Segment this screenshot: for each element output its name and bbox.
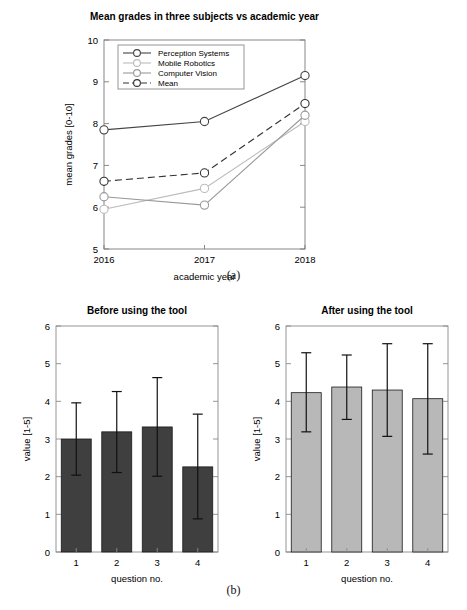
y-axis-label-1: value [1-5] [21,417,32,461]
x-tick-label: 2018 [294,254,315,265]
y-tick-label: 4 [45,396,50,407]
legend-marker [134,80,141,87]
y-tick-label: 3 [275,434,280,445]
x-tick-label: 2016 [93,254,114,265]
y-tick-label: 0 [45,547,50,558]
legend-label-2: Mobile Robotics [158,59,215,68]
legend-label-4: Mean [158,79,178,88]
chart-title-2: After using the tool [321,305,413,316]
x-tick-label: 1 [74,557,79,568]
y-tick-label: 5 [45,358,50,369]
series-marker [200,117,208,125]
series-marker [100,177,108,185]
series-marker [200,169,208,177]
y-axis-label: mean grades [0-10] [63,103,74,185]
legend-marker [134,50,141,57]
y-tick-label: 1 [45,509,50,520]
series-marker [301,99,309,107]
y-tick-label: 7 [93,160,98,171]
y-tick-label: 10 [87,35,98,46]
x-tick-label: 2 [344,557,349,568]
y-tick-label: 0 [275,547,280,558]
legend-marker [134,60,141,67]
y-tick-label: 4 [275,396,280,407]
legend-label-1: Perception Systems [158,49,229,58]
series-line-2 [104,122,305,210]
y-tick-label: 2 [275,471,280,482]
y-axis-label-2: value [1-5] [251,417,262,461]
y-tick-label: 8 [93,118,98,129]
y-tick-label: 9 [93,76,98,87]
x-tick-label: 3 [155,557,160,568]
series-marker [100,193,108,201]
series-marker [100,205,108,213]
x-tick-label: 2 [114,557,119,568]
mean-grades-line-chart: Mean grades in three subjects vs academi… [0,0,467,290]
survey-bar-charts: Before using the tool01234561234question… [0,300,467,585]
x-tick-label: 1 [304,557,309,568]
line-chart-figure: Mean grades in three subjects vs academi… [0,0,467,290]
x-tick-label: 4 [425,557,430,568]
figure-b-caption: (b) [0,583,467,598]
legend-marker [134,70,141,77]
legend-label-3: Computer Vision [158,69,217,78]
series-marker [200,184,208,192]
x-tick-label: 4 [195,557,200,568]
chart-title: Mean grades in three subjects vs academi… [90,11,319,22]
y-tick-label: 5 [93,244,98,255]
chart-title-1: Before using the tool [87,305,187,316]
x-tick-label: 3 [385,557,390,568]
y-tick-label: 6 [275,321,280,332]
series-marker [100,126,108,134]
y-tick-label: 2 [45,471,50,482]
y-tick-label: 3 [45,434,50,445]
series-marker [301,71,309,79]
series-marker [200,201,208,209]
bar-charts-figure: Before using the tool01234561234question… [0,300,467,610]
figure-a-caption: (a) [0,268,467,283]
series-marker [301,111,309,119]
y-tick-label: 5 [275,358,280,369]
y-tick-label: 6 [93,202,98,213]
x-tick-label: 2017 [194,254,215,265]
y-tick-label: 6 [45,321,50,332]
y-tick-label: 1 [275,509,280,520]
